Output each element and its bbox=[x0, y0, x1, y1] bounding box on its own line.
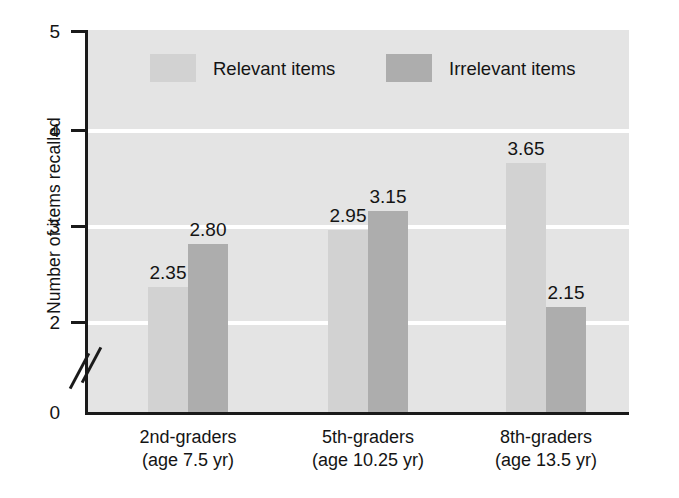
bar-chart: Number of items recalled 5 4 3 2 0 2.35 … bbox=[0, 0, 679, 498]
y-tick-label-3: 3 bbox=[20, 217, 60, 236]
x-category-label-8th-graders: 8th-graders (age 13.5 yr) bbox=[446, 426, 646, 472]
bar-value-relevant-2nd-graders: 2.35 bbox=[133, 263, 203, 282]
x-category-line1-8th-graders: 8th-graders bbox=[500, 427, 592, 447]
x-category-line1-2nd-graders: 2nd-graders bbox=[139, 427, 236, 447]
bar-value-relevant-8th-graders: 3.65 bbox=[491, 139, 561, 158]
bar-value-relevant-5th-graders: 2.95 bbox=[313, 206, 383, 225]
x-category-line1-5th-graders: 5th-graders bbox=[322, 427, 414, 447]
x-category-label-2nd-graders: 2nd-graders (age 7.5 yr) bbox=[88, 426, 288, 472]
bar-value-irrelevant-5th-graders: 3.15 bbox=[353, 187, 423, 206]
x-axis-line bbox=[85, 412, 629, 415]
bar-relevant-5th-graders bbox=[328, 230, 368, 412]
y-tick-label-4: 4 bbox=[20, 121, 60, 140]
bar-irrelevant-8th-graders bbox=[546, 307, 586, 412]
bar-irrelevant-5th-graders bbox=[368, 211, 408, 412]
bar-value-irrelevant-8th-graders: 2.15 bbox=[531, 283, 601, 302]
x-category-line2-8th-graders: (age 13.5 yr) bbox=[446, 449, 646, 472]
y-tick-label-0: 0 bbox=[20, 403, 60, 422]
x-category-line2-2nd-graders: (age 7.5 yr) bbox=[88, 449, 288, 472]
x-category-line2-5th-graders: (age 10.25 yr) bbox=[268, 449, 468, 472]
y-tick-label-5: 5 bbox=[20, 22, 60, 41]
x-category-label-5th-graders: 5th-graders (age 10.25 yr) bbox=[268, 426, 468, 472]
bar-value-irrelevant-2nd-graders: 2.80 bbox=[173, 220, 243, 239]
axis-break-icon bbox=[70, 345, 104, 397]
bar-relevant-2nd-graders bbox=[148, 287, 188, 412]
gridline-4 bbox=[88, 129, 629, 133]
y-tick-label-2: 2 bbox=[20, 313, 60, 332]
